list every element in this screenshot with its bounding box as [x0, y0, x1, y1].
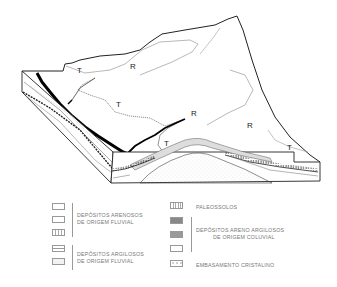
label-terrace-2: T [116, 100, 121, 109]
block-left-face [22, 71, 113, 183]
swatch-basement [170, 260, 183, 267]
swatch-sand-1 [52, 203, 65, 210]
swatch-clay-1 [52, 245, 65, 252]
label-terrace-3: T [164, 139, 169, 148]
terrain-surface [22, 16, 320, 162]
swatch-paleosol [170, 202, 183, 209]
label-terrace-4: T [287, 143, 292, 152]
bracket-colluvial [191, 217, 192, 252]
legend-label-clay-line1: DEPÓSITOS ARGILOSOS [77, 251, 144, 258]
block-diagram: T R T R R T T [0, 0, 337, 195]
bracket-sand [72, 203, 73, 237]
legend-label-sand-line1: DEPÓSITOS ARENOSOS [77, 212, 143, 219]
label-ramp-2: R [191, 109, 197, 118]
legend-label-paleosol: PALEOSSOLOS [196, 204, 237, 211]
legend-label-clay-line2: DE ORIGEM FLUVIAL [77, 258, 134, 265]
bracket-clay [72, 245, 73, 270]
legend: DEPÓSITOS ARENOSOS DE ORIGEM FLUVIAL DEP… [0, 195, 337, 287]
terrain-labels: T R T R R T T [77, 62, 292, 152]
label-terrace-1: T [77, 66, 82, 75]
swatch-colluvial-3 [170, 245, 183, 252]
swatch-clay-2 [52, 258, 65, 265]
swatch-colluvial-1 [170, 217, 183, 224]
legend-label-colluvial-line1: DEPÓSITOS ARENO ARGILOSOS [196, 227, 284, 234]
legend-label-colluvial-line2: DE ORIGEM COLUVIAL [213, 234, 275, 241]
swatch-sand-2 [52, 216, 65, 223]
tributary-upper [68, 100, 72, 104]
swatch-colluvial-2 [170, 231, 183, 238]
legend-label-basement: EMBASAMENTO CRISTALINO [196, 262, 274, 269]
swatch-sand-3 [52, 229, 65, 236]
label-ramp-1: R [130, 62, 136, 71]
label-ramp-3: R [247, 121, 253, 130]
legend-label-sand-line2: DE ORIGEM FLUVIAL [77, 219, 134, 226]
